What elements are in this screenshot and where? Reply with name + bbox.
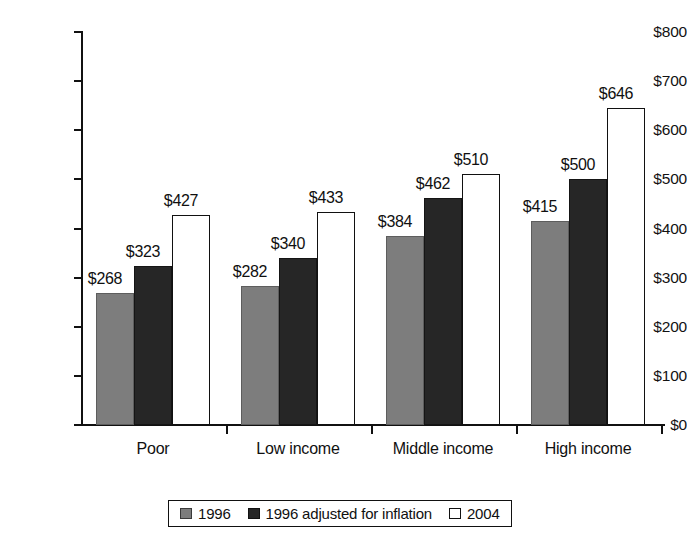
legend-swatch-icon: [180, 508, 192, 519]
x-axis-category-label: Poor: [137, 440, 170, 458]
x-axis-category-label: Middle income: [393, 440, 494, 458]
bar: [607, 108, 645, 425]
x-axis-tick: [226, 425, 228, 434]
x-axis-tick: [516, 425, 518, 434]
x-axis-tick: [661, 425, 663, 434]
legend-item: 1996 adjusted for inflation: [248, 505, 432, 522]
bar-value-label: $415: [523, 198, 557, 216]
bar: [462, 174, 500, 425]
bar: [531, 221, 569, 425]
bar-chart: $0$100$200$300$400$500$600$700$800 $268$…: [0, 0, 687, 537]
bar-value-label: $427: [164, 192, 198, 210]
bar: [317, 212, 355, 425]
legend-item-label: 1996: [198, 505, 231, 522]
bar-value-label: $433: [309, 189, 343, 207]
legend-swatch-icon: [449, 508, 461, 519]
legend-swatch-icon: [248, 508, 260, 519]
legend-item: 1996: [180, 505, 231, 522]
bar-value-label: $384: [378, 213, 412, 231]
bar-value-label: $510: [454, 151, 488, 169]
bar-value-label: $500: [561, 156, 595, 174]
bar: [424, 198, 462, 425]
bar: [241, 286, 279, 425]
bar: [134, 266, 172, 425]
bar: [386, 236, 424, 425]
bar: [172, 215, 210, 425]
bar: [279, 258, 317, 425]
bar-value-label: $323: [126, 243, 160, 261]
legend-item: 2004: [449, 505, 500, 522]
x-axis-category-label: Low income: [256, 440, 339, 458]
bar-value-label: $340: [271, 235, 305, 253]
x-axis-tick: [371, 425, 373, 434]
bar: [569, 179, 607, 425]
legend-item-label: 1996 adjusted for inflation: [266, 505, 432, 522]
legend-item-label: 2004: [467, 505, 500, 522]
plot-area: $268$323$427$282$340$433$384$462$510$415…: [82, 32, 662, 425]
x-axis-category-label: High income: [545, 440, 632, 458]
bar-value-label: $282: [233, 263, 267, 281]
chart-legend: 19961996 adjusted for inflation2004: [168, 500, 512, 527]
bar-value-label: $462: [416, 175, 450, 193]
bar-value-label: $646: [599, 85, 633, 103]
bar-value-label: $268: [88, 270, 122, 288]
bar: [96, 293, 134, 425]
